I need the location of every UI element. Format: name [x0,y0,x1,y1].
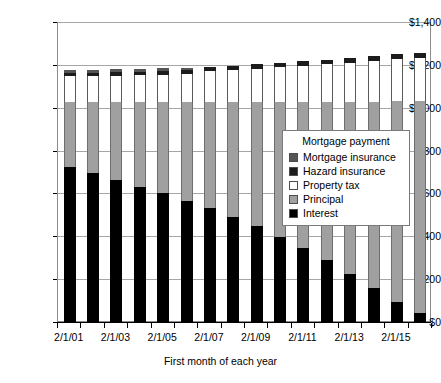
bar-segment [227,102,239,217]
legend-item: Principal [289,192,403,206]
legend-swatch-icon [289,181,298,190]
legend: Mortgage payment Mortgage insuranceHazar… [282,130,410,226]
bar-segment [204,208,216,322]
bar-stack [157,68,169,322]
legend-title: Mortgage payment [289,135,403,147]
bar-segment [181,74,193,101]
y-axis-tick-mark [53,65,57,66]
bar-stack [414,53,426,322]
bar-segment [414,58,426,101]
bar-segment [87,76,99,102]
y-axis-tick-mark [53,193,57,194]
bar-segment [251,102,263,227]
legend-swatch-icon [289,195,298,204]
bar-segment [368,61,380,102]
legend-item-label: Property tax [303,178,360,192]
bar-segment [64,76,76,101]
x-axis-tick-mark [197,323,198,328]
bar-segment [368,288,380,322]
x-axis-tick-mark [431,323,432,328]
x-axis-tick-label: 2/1/11 [288,331,316,343]
x-axis-tick-mark [384,323,385,328]
y-axis-tick-mark [53,108,57,109]
bar-segment [391,302,403,322]
bar-segment [181,201,193,323]
legend-item-label: Mortgage insurance [303,150,396,164]
bar-segment [204,71,216,102]
x-axis-tick-mark [244,323,245,328]
bar-segment [204,102,216,209]
bar-stack [251,64,263,322]
legend-swatch-icon [289,153,298,162]
bar-stack [181,68,193,322]
bar-stack [227,66,239,322]
x-axis-tick-mark [221,323,222,328]
legend-items: Mortgage insuranceHazard insuranceProper… [289,150,403,220]
x-axis-tick-label: 2/1/01 [54,331,83,343]
bar-segment [414,313,426,322]
bar-segment [134,75,146,102]
bar-stack [204,67,216,322]
bar-segment [274,67,286,101]
legend-item: Mortgage insurance [289,150,403,164]
x-axis-tick-mark [314,323,315,328]
legend-item-label: Principal [303,192,343,206]
x-axis-tick-mark [57,323,58,328]
bar-segment [110,76,122,102]
bar-segment [251,226,263,322]
x-axis-tick-mark [291,323,292,328]
bar-segment [321,64,333,102]
bar-segment [321,260,333,322]
x-axis-tick-mark [408,323,409,328]
legend-item: Property tax [289,178,403,192]
bar-segment [181,102,193,201]
mortgage-payment-stacked-bar-chart: $0$200$400$600$800$1,000$1,200$1,400 2/1… [0,0,441,383]
x-axis-tick-mark [174,323,175,328]
bar-segment [110,102,122,180]
x-axis-tick-mark [104,323,105,328]
x-axis-tick-mark [338,323,339,328]
bar-segment [134,102,146,187]
x-axis-tick-mark [80,323,81,328]
bar-segment [87,173,99,322]
bar-segment [157,193,169,322]
bar-segment [134,187,146,322]
x-axis-tick-label: 2/1/05 [148,331,177,343]
bar-segment [227,217,239,322]
x-axis-title: First month of each year [0,355,441,367]
bar-stack [64,70,76,322]
legend-item: Interest [289,206,403,220]
legend-item-label: Interest [303,206,338,220]
bar-segment [414,101,426,313]
x-axis-tick-mark [267,323,268,328]
bar-stack [110,69,122,322]
bar-segment [251,69,263,102]
bar-segment [344,274,356,322]
bar-segment [64,167,76,322]
x-axis-tick-label: 2/1/13 [335,331,364,343]
bar-segment [227,70,239,102]
x-axis-tick-label: 2/1/03 [101,331,130,343]
x-axis-tick-mark [151,323,152,328]
y-axis-tick-mark [53,22,57,23]
x-axis-tick-label: 2/1/09 [241,331,270,343]
bar-segment [297,248,309,322]
legend-item: Hazard insurance [289,164,403,178]
legend-swatch-icon [289,209,298,218]
x-axis-tick-mark [361,323,362,328]
y-axis-tick-mark [53,279,57,280]
y-axis-tick-mark [53,151,57,152]
x-axis-tick-label: 2/1/07 [194,331,223,343]
y-axis-tick-mark [53,236,57,237]
legend-swatch-icon [289,167,298,176]
bar-segment [391,59,403,101]
bar-segment [157,102,169,194]
bar-segment [110,180,122,322]
x-axis-tick-label: 2/1/15 [381,331,410,343]
bar-segment [344,63,356,102]
bar-segment [87,102,99,173]
bar-segment [297,66,309,102]
bar-stack [134,69,146,322]
bar-segment [274,237,286,322]
bar-stack [87,70,99,322]
